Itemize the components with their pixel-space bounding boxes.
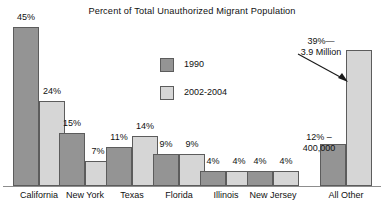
bar-label-california-2002-2004: 24% [38,86,66,96]
annotation-39-line2: 3.9 Million [288,47,354,58]
bar-label-florida-1990: 9% [152,139,180,149]
bar-california-1990 [13,27,39,186]
bar-illinois-1990 [200,171,226,186]
bar-label-texas-1990: 11% [105,132,133,142]
annotation-39-line1: 39%— [288,36,354,47]
x-axis-label-all-other: All Other [311,190,381,200]
bar-chart: Percent of Total Unauthorized Migrant Po… [0,0,384,209]
bar-label-illinois-1990: 4% [199,156,227,166]
bar-label-florida-2002-2004: 9% [178,139,206,149]
annotation-12-line2: 400,000 [288,143,350,154]
x-axis-label-new-jersey: New Jersey [238,190,308,200]
x-axis-line [3,186,381,187]
bar-new-jersey-2002-2004 [273,171,299,186]
bar-label-california-1990: 45% [12,12,40,22]
bar-texas-1990 [106,147,132,186]
bar-new-york-1990 [59,133,85,186]
annotation-all-other-1990: 12% – 400,000 [288,132,350,154]
bar-label-new-york-1990: 15% [58,118,86,128]
bar-all-other-2002-2004 [346,50,372,186]
bar-label-new-jersey-1990: 4% [246,156,274,166]
legend-label-2002-2004: 2002-2004 [184,87,227,97]
bar-label-new-jersey-2002-2004: 4% [272,156,300,166]
bar-label-texas-2002-2004: 14% [131,121,159,131]
bar-new-jersey-1990 [247,171,273,186]
legend-swatch-2002-2004 [160,86,174,100]
legend-swatch-1990 [160,58,174,72]
annotation-all-other-2002-2004: 39%— 3.9 Million [288,36,354,58]
legend-label-1990: 1990 [184,59,204,69]
annotation-12-line1: 12% – [288,132,350,143]
bar-florida-1990 [153,154,179,186]
